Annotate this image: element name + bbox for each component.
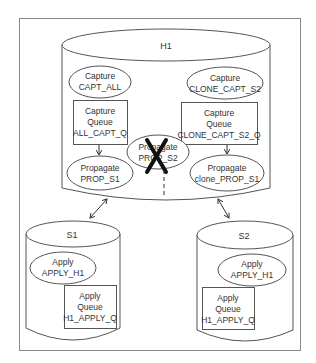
cropped-caption-text (0, 0, 316, 6)
svg-text:Apply: Apply (217, 293, 239, 303)
svg-text:Propagate: Propagate (207, 163, 246, 173)
capture-queue-all-capt-q: Capture Queue ALL_CAPT_Q (73, 101, 127, 145)
svg-text:Propagate: Propagate (80, 163, 119, 173)
svg-text:APPLY_H1: APPLY_H1 (231, 270, 274, 280)
svg-text:Capture: Capture (85, 106, 116, 116)
streams-replication-diagram: H1 Capture CAPT_ALL Capture CLONE_CAPT_S… (0, 0, 316, 363)
svg-text:Apply: Apply (241, 259, 263, 269)
capture-queue-clone-capt-s2-q: Capture Queue CLONE_CAPT_S2_Q (177, 103, 261, 145)
svg-text:Queue: Queue (206, 119, 232, 129)
capture-clone-capt-s2: Capture CLONE_CAPT_S2 (187, 67, 263, 99)
database-s1: S1 Apply APPLY_H1 Apply Queue H1_APPLY_Q (26, 221, 120, 340)
svg-text:Queue: Queue (215, 304, 241, 314)
svg-text:Capture: Capture (85, 71, 116, 81)
svg-text:CLONE_CAPT_S2_Q: CLONE_CAPT_S2_Q (177, 130, 261, 140)
svg-text:ALL_CAPT_Q: ALL_CAPT_Q (73, 128, 127, 138)
svg-text:Apply: Apply (52, 257, 74, 267)
svg-text:Queue: Queue (77, 302, 103, 312)
svg-text:APPLY_H1: APPLY_H1 (42, 268, 85, 278)
svg-text:S2: S2 (238, 231, 249, 241)
propagate-prop-s1: Propagate PROP_S1 (67, 156, 133, 190)
svg-text:H1_APPLY_Q: H1_APPLY_Q (201, 315, 255, 325)
database-s2: S2 Apply APPLY_H1 Apply Queue H1_APPLY_Q (197, 221, 293, 341)
svg-text:Queue: Queue (87, 117, 113, 127)
svg-text:PROP_S1: PROP_S1 (80, 174, 119, 184)
svg-text:Apply: Apply (79, 291, 101, 301)
svg-text:CLONE_CAPT_S2: CLONE_CAPT_S2 (189, 84, 261, 94)
capture-capt-all: Capture CAPT_ALL (69, 66, 131, 98)
propagate-clone-prop-s1: Propagate clone_PROP_S1 (190, 155, 264, 191)
svg-text:S1: S1 (66, 230, 77, 240)
svg-text:clone_PROP_S1: clone_PROP_S1 (195, 174, 260, 184)
svg-text:Capture: Capture (204, 108, 235, 118)
svg-text:CAPT_ALL: CAPT_ALL (79, 82, 122, 92)
svg-text:H1_APPLY_Q: H1_APPLY_Q (63, 313, 117, 323)
h1-label: H1 (160, 41, 172, 51)
svg-text:Capture: Capture (210, 73, 241, 83)
